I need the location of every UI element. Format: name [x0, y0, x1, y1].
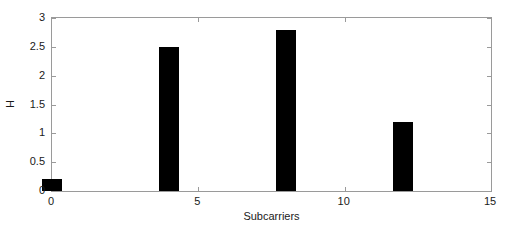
x-axis-tick-top [198, 17, 199, 22]
y-axis-tick [51, 105, 56, 106]
y-axis-tick-label: 1 [39, 127, 45, 138]
y-axis-tick-label: 0 [39, 185, 45, 196]
y-axis-tick [51, 191, 56, 192]
y-axis-tick [51, 47, 56, 48]
x-axis-tick-label: 5 [194, 196, 200, 207]
x-axis-tick-label: 10 [338, 196, 350, 207]
chart-figure: 00.511.522.53 051015 Subcarriers H [0, 0, 515, 231]
y-axis-tick-label: 0.5 [30, 156, 45, 167]
y-axis-tick [51, 133, 56, 134]
x-axis-tick [345, 187, 346, 192]
y-axis-tick-label: 3 [39, 12, 45, 23]
y-axis-label: H [4, 100, 16, 108]
x-axis-tick-top [345, 17, 346, 22]
y-axis-tick-right [487, 133, 492, 134]
y-axis-tick-label: 2.5 [30, 40, 45, 51]
y-axis-tick-label: 2 [39, 69, 45, 80]
plot-area [51, 17, 492, 192]
bar [159, 47, 179, 191]
x-axis-tick-label: 0 [48, 196, 54, 207]
y-axis-tick-right [487, 105, 492, 106]
y-axis-tick [51, 76, 56, 77]
y-axis-tick-right [487, 18, 492, 19]
y-axis-tick-right [487, 162, 492, 163]
x-axis-tick-label: 15 [484, 196, 496, 207]
bar [393, 122, 413, 191]
y-axis-tick [51, 162, 56, 163]
x-axis-tick [198, 187, 199, 192]
y-axis-tick [51, 18, 56, 19]
y-axis-tick-right [487, 47, 492, 48]
y-axis-tick-right [487, 76, 492, 77]
y-axis-tick-right [487, 191, 492, 192]
bar [276, 30, 296, 191]
y-axis-tick-label: 1.5 [30, 98, 45, 109]
x-axis-label: Subcarriers [51, 210, 492, 222]
